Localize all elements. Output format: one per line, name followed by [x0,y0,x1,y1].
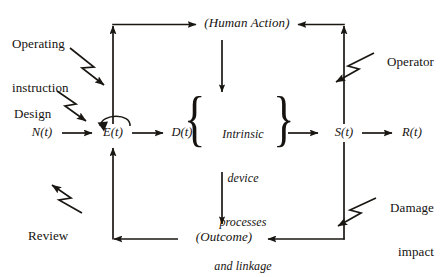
brace-left: { [184,88,205,149]
node-human-action: (Human Action) [196,16,298,31]
label-operating-instruction-line1: Operating [12,37,69,52]
label-review-line1: Review [28,229,68,244]
label-operator: Operator [308,26,434,99]
label-review: Review [28,200,68,273]
node-r-t: R(t) [392,125,432,139]
node-n-t: N(t) [22,125,62,139]
center-line-4: and linkage [204,259,282,274]
center-line-1: Intrinsic [204,127,282,142]
label-design-line1: Design [14,107,51,122]
center-line-3: processes [204,215,282,230]
label-damage-impact-line2: impact [306,245,434,260]
center-device-block: Intrinsic device processes and linkage [204,98,282,277]
label-design: Design [14,78,51,151]
bolt-arrow-operating-instruction [70,48,104,85]
center-line-2: device [204,171,282,186]
label-operator-line1: Operator [308,55,434,70]
node-s-t: S(t) [325,125,363,139]
node-e-t: E(t) [94,125,132,139]
label-damage-impact-line1: Damage [306,201,434,216]
brace-right: } [273,88,294,149]
label-damage-impact: Damage impact [306,172,434,277]
